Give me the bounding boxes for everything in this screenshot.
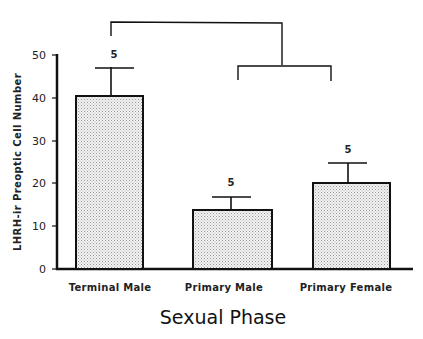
y-axis-label: LHRH-ir Preoptic Cell Number: [12, 73, 23, 251]
y-tick-0: 0: [39, 263, 46, 276]
category-primary-female: Primary Female: [300, 282, 393, 293]
bar-terminal-male: 5: [76, 49, 143, 269]
n-label: 5: [228, 177, 235, 188]
bar-chart: 0 10 20 30 40 50 LHRH-ir Preoptic Cell N…: [0, 0, 423, 339]
x-axis-label: Sexual Phase: [160, 306, 286, 328]
category-terminal-male: Terminal Male: [69, 282, 152, 293]
bar-primary-male: 5: [193, 177, 272, 269]
y-tick-10: 10: [32, 220, 46, 233]
significance-bracket: [111, 22, 331, 81]
category-primary-male: Primary Male: [185, 282, 263, 293]
y-tick-50: 50: [32, 49, 46, 62]
y-tick-40: 40: [32, 92, 46, 105]
n-label: 5: [111, 49, 118, 60]
y-tick-20: 20: [32, 177, 46, 190]
bar-primary-female: 5: [313, 144, 390, 269]
y-tick-30: 30: [32, 135, 46, 148]
y-ticks: 0 10 20 30 40 50: [32, 49, 57, 276]
n-label: 5: [345, 144, 352, 155]
